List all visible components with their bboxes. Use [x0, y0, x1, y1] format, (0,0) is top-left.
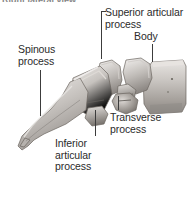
- leader-line-spinous-process: [40, 70, 41, 116]
- leader-line-superior-articular-process: [101, 11, 102, 59]
- label-transverse-process: Transverse process: [110, 112, 161, 135]
- label-spinous-process: Spinous process: [18, 44, 55, 67]
- label-superior-articular-process: Superior articular process: [105, 7, 183, 30]
- leader-line-inferior-articular-process: [95, 110, 96, 136]
- leader-line-transverse-process: [118, 96, 119, 110]
- leader-line-body: [152, 44, 153, 62]
- label-body: Body: [134, 31, 158, 43]
- figure-panel: Right lateral view: [0, 0, 192, 198]
- label-inferior-articular-process: Inferior articular process: [55, 138, 91, 173]
